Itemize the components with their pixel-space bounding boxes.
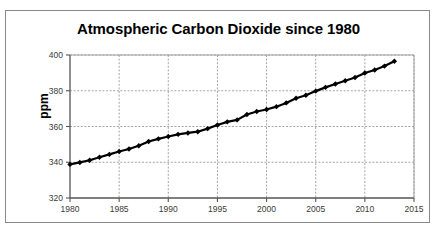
chart-card: Atmospheric Carbon Dioxide since 1980 pp… <box>5 10 430 223</box>
data-point-marker <box>333 81 338 86</box>
x-tick-label: 1980 <box>61 204 80 214</box>
chart-plot: 320340360380400 198019851990199520002005… <box>6 11 431 224</box>
y-tick-label: 360 <box>49 122 63 132</box>
data-point-marker <box>116 149 121 154</box>
data-point-marker <box>97 155 102 160</box>
data-point-marker <box>205 126 210 131</box>
x-tick-label: 1990 <box>159 204 178 214</box>
data-point-marker <box>195 129 200 134</box>
data-point-marker <box>107 152 112 157</box>
x-tick-label: 2010 <box>355 204 374 214</box>
data-point-marker <box>126 146 131 151</box>
data-point-marker <box>87 158 92 163</box>
y-axis-ticks: 320340360380400 <box>49 50 70 203</box>
y-tick-label: 340 <box>49 157 63 167</box>
data-point-marker <box>225 119 230 124</box>
y-tick-label: 400 <box>49 50 63 60</box>
x-tick-label: 2015 <box>405 204 424 214</box>
data-point-marker <box>156 136 161 141</box>
x-tick-label: 2005 <box>306 204 325 214</box>
x-tick-label: 1995 <box>208 204 227 214</box>
data-point-markers <box>67 59 397 168</box>
data-point-marker <box>343 78 348 83</box>
series-line <box>70 61 394 164</box>
y-tick-label: 320 <box>49 193 63 203</box>
gridlines <box>70 55 414 198</box>
data-series-line <box>70 61 394 164</box>
data-point-marker <box>264 107 269 112</box>
x-tick-label: 1985 <box>110 204 129 214</box>
data-point-marker <box>185 130 190 135</box>
x-tick-label: 2000 <box>257 204 276 214</box>
data-point-marker <box>77 160 82 165</box>
data-point-marker <box>175 132 180 137</box>
data-point-marker <box>166 134 171 139</box>
data-point-marker <box>254 109 259 114</box>
y-tick-label: 380 <box>49 86 63 96</box>
data-point-marker <box>215 122 220 127</box>
x-axis-ticks: 19801985199019952000200520102015 <box>61 198 424 214</box>
